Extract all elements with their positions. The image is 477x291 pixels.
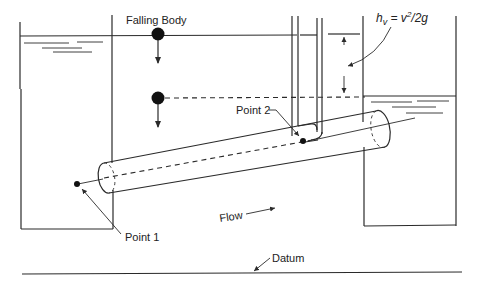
pipe-axis-right	[318, 118, 415, 139]
point-2-marker	[300, 138, 306, 144]
point-2-label: Point 2	[236, 104, 270, 116]
right-water-ripples	[371, 101, 449, 113]
falling-body-label: Falling Body	[126, 14, 187, 26]
right-tank-bottom	[364, 225, 456, 226]
pipe-left-end-front	[98, 163, 109, 193]
pipe-axis-dashed	[104, 139, 318, 178]
datum-leader-arrow	[254, 258, 270, 271]
velocity-head-leader-arrow	[348, 27, 391, 66]
point-1-marker	[74, 181, 80, 187]
pipe-right-end-back	[371, 111, 385, 147]
falling-body-top	[152, 28, 165, 64]
flow-arrow	[246, 208, 275, 214]
flow-label: Flow	[219, 209, 244, 224]
datum-line	[22, 272, 462, 274]
point-1: Point 1	[74, 181, 159, 243]
left-water-ripples	[24, 42, 103, 52]
velocity-head-label: hv = v2/2g	[376, 10, 428, 27]
datum: Datum	[22, 252, 462, 274]
falling-body-ball-top	[152, 28, 165, 41]
falling-body-bottom	[152, 92, 165, 128]
velocity-head-indicator: hv = v2/2g	[344, 10, 428, 93]
hydraulic-grade-dashed-line	[165, 97, 365, 98]
point-1-label: Point 1	[125, 231, 159, 243]
point-2-leader-arrow	[269, 110, 299, 136]
falling-body-ball-bottom	[152, 92, 165, 105]
datum-label: Datum	[272, 252, 304, 264]
point-1-leader-arrow	[82, 189, 121, 234]
bernoulli-diagram: Falling Body hv = v2/2g	[0, 0, 477, 291]
pipe-right-end-front	[376, 111, 390, 147]
point-2: Point 2	[236, 104, 306, 144]
left-reservoir	[20, 15, 113, 229]
flow-indicator: Flow	[219, 208, 275, 224]
